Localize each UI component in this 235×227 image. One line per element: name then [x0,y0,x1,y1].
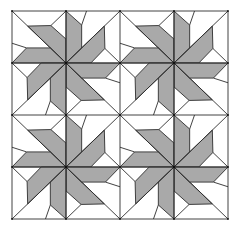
grid-vertex-dot [227,166,229,168]
grid-vertex-dot [65,218,67,220]
grid-vertex-dot [173,166,176,169]
grid-vertex-dot [227,218,229,220]
grid-vertex-dot [65,166,68,169]
grid-vertex-dot [173,114,175,116]
grid-vertex-dot [119,10,121,12]
grid-vertex-dot [119,218,121,220]
quilt-pattern-svg [0,0,235,227]
grid-vertex-dot [227,114,229,116]
grid-vertex-dot [173,62,176,65]
grid-vertex-dot [227,62,229,64]
grid-vertex-dot [227,10,229,12]
quilt-diagram [0,0,235,227]
grid-vertex-dot [173,10,175,12]
grid-vertex-dot [11,218,13,220]
grid-vertex-dot [65,114,67,116]
grid-vertex-dot [65,10,67,12]
grid-vertex-dot [11,10,13,12]
grid-vertex-dot [173,218,175,220]
grid-vertex-dot [11,166,13,168]
grid-vertex-dot [11,114,13,116]
grid-vertex-dot [65,62,68,65]
grid-vertex-dot [11,62,13,64]
grid-vertex-dot [119,166,121,168]
grid-vertex-dot [119,62,121,64]
grid-vertex-dot [119,114,121,116]
